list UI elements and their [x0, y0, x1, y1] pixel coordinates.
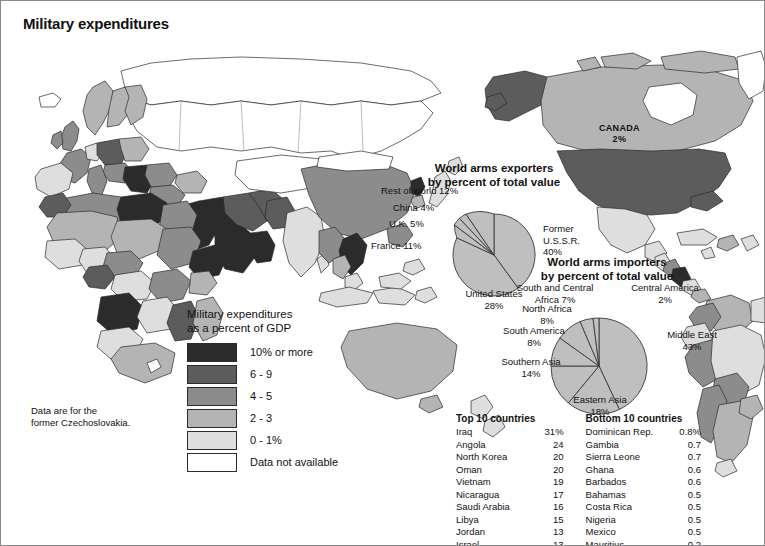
exporters-label-france: France 11%	[371, 240, 422, 252]
country-value: 16	[539, 501, 564, 514]
importers-soa-line2: 14%	[485, 368, 577, 380]
legend-swatch	[187, 409, 237, 428]
table-row: Bahamas0.5	[586, 489, 701, 502]
country-value: 17	[539, 489, 564, 502]
table-row: Barbados0.6	[586, 476, 701, 489]
table-row: Costa Rica0.5	[586, 501, 701, 514]
country-name: Costa Rica	[586, 501, 632, 514]
table-row: Nigeria0.5	[586, 514, 701, 527]
country-name: Oman	[456, 464, 482, 477]
legend-swatch	[187, 387, 237, 406]
country-name: Iraq	[456, 426, 472, 439]
importers-label-north-africa: North Africa 8%	[507, 303, 587, 326]
table-row: Oman20	[456, 464, 564, 477]
country-name: Mexico	[586, 526, 616, 539]
country-name: Mauritius	[586, 539, 625, 546]
country-value: 13	[539, 526, 564, 539]
bottom-10-table: Bottom 10 countries Dominican Rep.0.8% G…	[586, 413, 701, 546]
importers-pie-chart: World arms importers by percent of total…	[507, 255, 707, 423]
country-name: Saudi Arabia	[456, 501, 510, 514]
table-row: Ghana0.6	[586, 464, 701, 477]
importers-sa-line1: South America	[491, 325, 577, 337]
country-value: 0.7	[674, 439, 701, 452]
legend-title-line1: Military expenditures	[187, 307, 338, 321]
country-value: 0.2	[674, 539, 701, 546]
country-name: Ghana	[586, 464, 615, 477]
legend-item-0-1: 0 - 1%	[187, 431, 338, 450]
top-10-table: Top 10 countries Iraq31% Angola24 North …	[456, 413, 564, 546]
country-name: North Korea	[456, 451, 507, 464]
legend-item-4-5: 4 - 5	[187, 387, 338, 406]
exporters-label-rest-of-world: Rest of world 12%	[381, 185, 458, 197]
legend-item-2-3: 2 - 3	[187, 409, 338, 428]
top-10-header: Top 10 countries	[456, 413, 564, 424]
importers-na-line1: North Africa	[507, 303, 587, 315]
table-row: Angola24	[456, 439, 564, 452]
country-value: 24	[539, 439, 564, 452]
exporters-ussr-line1: Former	[543, 223, 580, 235]
legend-swatch	[187, 431, 237, 450]
canada-label-name: CANADA	[599, 123, 640, 134]
country-value: 0.6	[674, 476, 701, 489]
country-name: Vietnam	[456, 476, 491, 489]
importers-label-south-america: South America 8%	[491, 325, 577, 348]
legend-swatch	[187, 365, 237, 384]
legend-title-line2: as a percent of GDP	[187, 321, 338, 335]
legend-item-10-or-more: 10% or more	[187, 343, 338, 362]
table-row: Dominican Rep.0.8%	[586, 426, 701, 439]
table-row: Gambia0.7	[586, 439, 701, 452]
legend-item-no-data: Data not available	[187, 453, 338, 472]
importers-ca-line1: Central America	[617, 282, 713, 294]
table-row: Libya15	[456, 514, 564, 527]
country-value: 0.8%	[665, 426, 701, 439]
country-name: Libya	[456, 514, 479, 527]
czechoslovakia-note-line2: former Czechoslovakia.	[31, 417, 130, 429]
importers-title-line1: World arms importers	[507, 255, 707, 269]
importers-sca-line1: South and Central	[503, 282, 607, 294]
country-value: 15	[539, 514, 564, 527]
country-value: 0.5	[674, 526, 701, 539]
czechoslovakia-note: Data are for the former Czechoslovakia.	[31, 405, 130, 430]
country-name: Nigeria	[586, 514, 616, 527]
country-name: Jordan	[456, 526, 485, 539]
country-value: 13	[539, 539, 564, 546]
table-row: Israel13	[456, 539, 564, 546]
bottom-10-header: Bottom 10 countries	[586, 413, 701, 424]
importers-label-southern-asia: Southern Asia 14%	[485, 356, 577, 379]
exporters-title-line1: World arms exporters	[383, 161, 605, 175]
legend-label: 2 - 3	[250, 412, 272, 424]
importers-label-central-america: Central America 2%	[617, 282, 713, 305]
canada-map-label: CANADA 2%	[599, 123, 640, 146]
country-value: 19	[539, 476, 564, 489]
country-value: 31%	[531, 426, 564, 439]
legend-title: Military expenditures as a percent of GD…	[187, 307, 338, 336]
importers-ca-line2: 2%	[617, 294, 713, 306]
legend-label: Data not available	[250, 456, 338, 468]
table-row: Nicaragua17	[456, 489, 564, 502]
legend-label: 6 - 9	[250, 368, 272, 380]
importers-me-line2: 43%	[655, 341, 729, 353]
canada-label-value: 2%	[599, 134, 640, 145]
czechoslovakia-note-line1: Data are for the	[31, 405, 130, 417]
table-row: Saudi Arabia16	[456, 501, 564, 514]
country-rankings: Top 10 countries Iraq31% Angola24 North …	[456, 413, 701, 546]
exporters-label-uk: U.K. 5%	[389, 218, 424, 230]
country-name: Angola	[456, 439, 486, 452]
country-value: 20	[539, 464, 564, 477]
legend-label: 0 - 1%	[250, 434, 282, 446]
table-row: Sierra Leone0.7	[586, 451, 701, 464]
page-title-text: Military expenditures	[23, 15, 169, 32]
legend-label: 4 - 5	[250, 390, 272, 402]
table-row: Mauritius0.2	[586, 539, 701, 546]
country-name: Sierra Leone	[586, 451, 640, 464]
legend-swatch	[187, 453, 237, 472]
table-row: North Korea20	[456, 451, 564, 464]
country-name: Dominican Rep.	[586, 426, 654, 439]
country-value: 0.5	[674, 489, 701, 502]
table-row: Mexico0.5	[586, 526, 701, 539]
exporters-ussr-line2: U.S.S.R.	[543, 235, 580, 247]
importers-chart-title: World arms importers by percent of total…	[507, 255, 707, 283]
country-value: 0.5	[674, 501, 701, 514]
table-row: Iraq31%	[456, 426, 564, 439]
legend-label: 10% or more	[250, 346, 313, 358]
